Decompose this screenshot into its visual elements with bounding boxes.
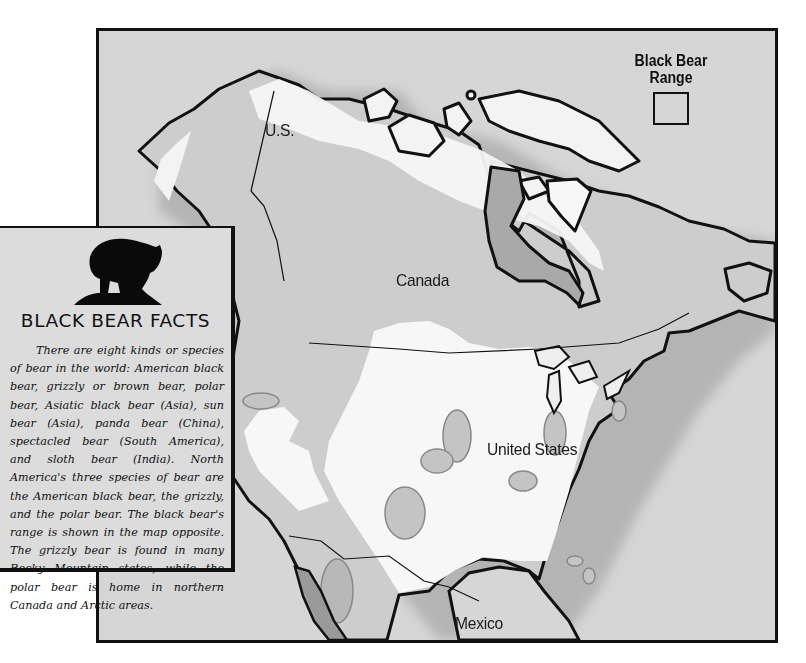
card-title: BLACK BEAR FACTS (0, 310, 231, 331)
label-us-alaska: U.S. (265, 121, 294, 141)
label-united-states: United States (487, 440, 577, 460)
map-legend: Black Bear Range (628, 52, 714, 125)
label-canada: Canada (396, 271, 449, 291)
card-body-text: There are eight kinds or species of bear… (10, 342, 224, 615)
bear-silhouette-icon (70, 233, 166, 305)
legend-title-line1: Black Bear (633, 52, 709, 69)
legend-swatch-black-bear-range (653, 92, 689, 125)
black-bear-facts-card: BLACK BEAR FACTS There are eight kinds o… (0, 226, 235, 572)
label-mexico: Mexico (455, 614, 503, 634)
legend-title-line2: Range (633, 69, 709, 86)
